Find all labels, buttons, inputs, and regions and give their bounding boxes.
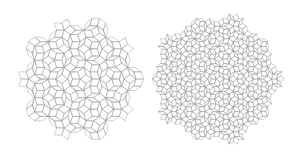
rhombus-edges	[19, 19, 144, 140]
tile-arc	[113, 75, 116, 79]
tile-arc	[131, 70, 135, 76]
tile-arc	[55, 57, 58, 61]
right-penrose-tiling	[152, 14, 284, 144]
tile-arc	[91, 109, 94, 113]
tiling-figure	[0, 0, 288, 156]
tile-arc	[71, 72, 74, 76]
tile-arc	[54, 88, 61, 90]
tile-arc	[54, 67, 61, 69]
rhombus-edges	[152, 14, 284, 144]
tile-arc	[45, 90, 49, 96]
tile-arc	[55, 98, 58, 102]
tile-arc	[113, 79, 116, 83]
tile-arc	[51, 119, 55, 125]
tile-arc	[67, 59, 71, 65]
tile-arc	[109, 39, 113, 45]
tile-arc	[91, 49, 94, 53]
tile-arc	[49, 113, 52, 117]
tile-arc	[59, 71, 63, 77]
tile-arc	[36, 94, 39, 98]
tile-arc	[89, 100, 96, 102]
tile-arc	[49, 42, 52, 46]
tile-arc	[89, 56, 96, 58]
tile-arc	[91, 45, 94, 49]
tile-arc	[109, 100, 116, 102]
tile-arc	[91, 106, 94, 110]
tile-arc	[81, 41, 85, 47]
tile-arc	[109, 56, 116, 58]
tile-arc	[87, 22, 91, 28]
tile-arc	[71, 83, 74, 87]
tile-arc	[36, 60, 39, 64]
left-penrose-tiling	[19, 19, 144, 140]
tile-arc	[45, 100, 49, 106]
